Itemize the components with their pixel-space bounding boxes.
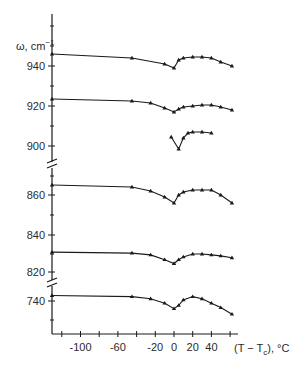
x-tick-label: -20 bbox=[147, 341, 163, 353]
y-tick-label: 940 bbox=[27, 60, 45, 72]
x-axis-title: (T − Tc), °C bbox=[234, 342, 289, 357]
x-tick-label: -60 bbox=[110, 341, 126, 353]
y-axis: 940920900860840820740 bbox=[27, 14, 57, 334]
y-tick-label: 820 bbox=[27, 266, 45, 278]
chart-plot-area: 940920900860840820740 -100-60-2002040 ω,… bbox=[0, 0, 297, 365]
y-tick-label: 860 bbox=[27, 189, 45, 201]
series-line bbox=[50, 250, 234, 265]
y-tick-label: 740 bbox=[27, 295, 45, 307]
y-tick-label: 920 bbox=[27, 100, 45, 112]
x-tick-label: 40 bbox=[205, 341, 217, 353]
data-point-marker bbox=[191, 294, 195, 298]
series-line bbox=[50, 52, 234, 70]
y-tick-label: 840 bbox=[27, 229, 45, 241]
x-tick-label: 0 bbox=[171, 341, 177, 353]
series-line bbox=[50, 293, 234, 315]
series-line bbox=[50, 183, 234, 205]
x-axis: -100-60-2002040 bbox=[52, 331, 238, 353]
series-line bbox=[169, 130, 214, 151]
data-series-group bbox=[50, 52, 234, 316]
axis-break-lower bbox=[47, 278, 57, 287]
y-tick-label: 900 bbox=[27, 140, 45, 152]
y-axis-title: ω, cm−1 bbox=[16, 38, 55, 52]
data-point-marker bbox=[169, 135, 173, 139]
x-tick-label: 20 bbox=[187, 341, 199, 353]
x-tick-label: -100 bbox=[69, 341, 91, 353]
series-line bbox=[50, 97, 234, 114]
axis-break-upper bbox=[47, 159, 57, 168]
